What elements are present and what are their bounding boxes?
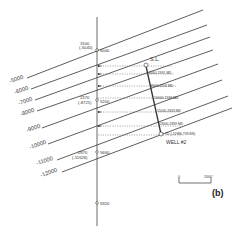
well-depth-label: 13000-2839 MD: [159, 122, 184, 126]
contour-line-9000: [42, 64, 218, 128]
contour-label: -9000: [25, 123, 40, 133]
section-point-tvd: (-11626): [72, 155, 88, 160]
section-point-station: 5660: [100, 150, 110, 155]
scale-bar: 0 2000': [178, 175, 213, 183]
well-depth-label: TD (-11986 TVDSS): [165, 132, 195, 136]
contour-lines: [27, 10, 232, 172]
scale-bar-end: 2000': [204, 175, 213, 179]
contour-label: -12000: [39, 167, 57, 178]
contour-line-6000: [31, 25, 207, 89]
contour-label: -5000: [8, 74, 23, 84]
well-depth-label: 11000-2633 MD: [157, 109, 182, 113]
contour-label: -7000: [17, 96, 32, 106]
contour-line-5000: [27, 10, 203, 78]
section-point-station: 5200: [100, 99, 110, 104]
section-point-marker: [96, 99, 99, 102]
well-section-diagram: -5000 -6000 -7000 -8000 -9000 -10000 -11…: [0, 0, 239, 230]
well-name-label: WELL #2: [166, 139, 187, 145]
section-point-station: 5920: [100, 201, 110, 206]
section-markers: [98, 65, 102, 127]
total-depth-marker: [159, 132, 163, 136]
well-depth-label: 8000-2114 MD: [151, 84, 174, 88]
panel-label: (b): [212, 188, 224, 198]
contour-labels: -5000 -6000 -7000 -8000 -9000 -10000 -11…: [8, 74, 57, 178]
well-depth-label: 6000-1991 MD: [149, 71, 172, 75]
surface-location-marker: [144, 63, 148, 67]
section-point-station: 5040: [100, 48, 110, 53]
contour-label: -8000: [19, 107, 34, 117]
section-point-marker: [96, 202, 99, 205]
contour-label: -10000: [28, 139, 46, 150]
contour-line-8000: [37, 50, 213, 111]
section-point-tvd: (-5040): [79, 45, 93, 50]
contour-label: -6000: [13, 85, 28, 95]
contour-label: -11000: [35, 155, 53, 166]
contour-line-12000: [62, 108, 232, 172]
contour-line-7000: [35, 37, 210, 100]
section-point-marker: [96, 151, 99, 154]
section-point-marker: [96, 49, 99, 52]
surface-location-label: S.L.: [150, 56, 160, 62]
well-depth-label: 10000-2139 MD: [154, 96, 179, 100]
section-point-tvd: (-8721): [78, 100, 92, 105]
scale-bar-start: 0: [178, 175, 180, 179]
